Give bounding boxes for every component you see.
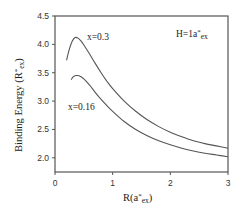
x-tick-label: 0 [53, 178, 58, 188]
x-axis-title-base: R(a [123, 192, 139, 204]
y-axis-title-base: Binding Energy (R [13, 72, 25, 152]
chart: 2.02.53.03.54.04.5 0123 x=0.3 x=0.16 H=1… [0, 0, 242, 212]
x-axis-title: R(a*ex) [123, 192, 153, 205]
y-axis-ticks: 2.02.53.03.54.04.5 [37, 11, 55, 163]
x-tick-label: 3 [226, 178, 231, 188]
y-tick-label: 2.0 [37, 153, 49, 163]
series-line-x0.16 [71, 75, 228, 156]
x-tick-label: 2 [168, 178, 173, 188]
annotation-x03: x=0.3 [87, 32, 109, 42]
y-tick-label: 3.5 [37, 68, 49, 78]
y-tick-label: 4.0 [37, 39, 49, 49]
annotation-H: H=1a*ex [176, 28, 208, 41]
series-group [67, 37, 228, 156]
x-tick-label: 1 [110, 178, 115, 188]
annotation-H-base: H=1a [176, 29, 198, 39]
x-axis-title-close: ) [149, 192, 153, 204]
y-axis-title: Binding Energy (R*ex) [13, 58, 26, 152]
annotation-x016: x=0.16 [68, 102, 95, 112]
y-tick-label: 2.5 [37, 124, 49, 134]
y-tick-label: 3.0 [37, 96, 49, 106]
annotation-H-sub: ex [201, 32, 208, 41]
series-line-x0.3 [67, 37, 228, 148]
y-axis-title-close: ) [13, 58, 25, 62]
y-tick-label: 4.5 [37, 11, 49, 21]
x-axis-ticks: 0123 [53, 172, 231, 188]
